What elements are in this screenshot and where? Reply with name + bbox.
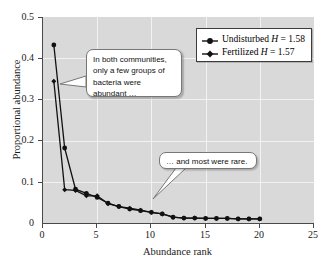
abundance-rank-chart: 0.5 0.4 0.3 0.2 0.1 0 Proportional abund… — [0, 0, 330, 273]
callout-2-line-1: … and most were rare. — [166, 156, 250, 167]
callout-1-line-3: bacteria were — [93, 77, 175, 88]
callout-abundant-groups: In both communities, only a few groups o… — [86, 49, 182, 97]
callout-1-line-4: abundant … — [93, 88, 175, 99]
callout-1-tail-icon — [60, 76, 86, 87]
callout-tails — [0, 0, 330, 273]
callout-1-line-2: only a few groups of — [93, 65, 175, 76]
callout-most-rare: … and most were rare. — [159, 152, 257, 169]
callout-2-tail-icon — [153, 168, 186, 199]
callout-1-line-1: In both communities, — [93, 54, 175, 65]
